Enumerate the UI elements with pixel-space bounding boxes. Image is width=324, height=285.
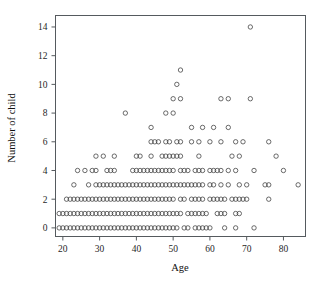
y-axis-title: Number of child — [6, 93, 17, 163]
data-point — [171, 97, 175, 101]
data-point — [219, 183, 223, 187]
data-point — [197, 154, 201, 158]
x-tick-label: 30 — [95, 244, 105, 254]
data-points-layer — [57, 25, 300, 230]
data-point — [274, 154, 278, 158]
x-tick-label: 50 — [168, 244, 178, 254]
data-point — [200, 125, 204, 129]
data-point — [237, 183, 241, 187]
x-axis-title: Age — [171, 262, 189, 273]
data-point — [123, 111, 127, 115]
data-point — [248, 97, 252, 101]
data-point — [226, 168, 230, 172]
data-point — [219, 97, 223, 101]
data-point — [233, 140, 237, 144]
x-axis-ticks: 20304050607080 — [58, 237, 288, 254]
data-point — [226, 125, 230, 129]
data-point — [296, 183, 300, 187]
y-tick-label: 4 — [43, 166, 48, 176]
data-point — [226, 183, 230, 187]
data-point — [83, 168, 87, 172]
y-tick-label: 0 — [43, 223, 48, 233]
x-tick-label: 60 — [205, 244, 215, 254]
data-point — [226, 97, 230, 101]
data-point — [189, 125, 193, 129]
data-point — [222, 226, 226, 230]
data-point — [197, 140, 201, 144]
data-point — [252, 226, 256, 230]
data-point — [86, 183, 90, 187]
data-point — [178, 97, 182, 101]
data-point — [164, 111, 168, 115]
y-tick-label: 2 — [43, 195, 48, 205]
plot-frame — [56, 16, 306, 237]
y-axis-ticks: 02468101214 — [38, 22, 56, 233]
x-tick-label: 70 — [242, 244, 252, 254]
y-tick-label: 14 — [38, 22, 48, 32]
data-point — [244, 183, 248, 187]
data-point — [211, 125, 215, 129]
x-tick-label: 20 — [58, 244, 68, 254]
data-point — [267, 140, 271, 144]
scatter-plot-figure: 20304050607080 02468101214 Age Number of… — [0, 0, 324, 285]
data-point — [252, 168, 256, 172]
x-tick-label: 40 — [132, 244, 142, 254]
data-point — [219, 140, 223, 144]
x-tick-label: 80 — [279, 244, 289, 254]
data-point — [94, 154, 98, 158]
data-point — [267, 197, 271, 201]
data-point — [75, 168, 79, 172]
data-point — [101, 154, 105, 158]
data-point — [175, 82, 179, 86]
data-point — [208, 140, 212, 144]
data-point — [281, 168, 285, 172]
data-point — [112, 154, 116, 158]
data-point — [237, 154, 241, 158]
data-point — [189, 140, 193, 144]
data-point — [149, 125, 153, 129]
plot-canvas: 20304050607080 02468101214 Age Number of… — [0, 0, 324, 285]
data-point — [241, 140, 245, 144]
data-point — [233, 226, 237, 230]
data-point — [230, 154, 234, 158]
data-point — [248, 25, 252, 29]
y-tick-label: 10 — [38, 80, 48, 90]
data-point — [178, 68, 182, 72]
data-point — [72, 183, 76, 187]
data-point — [149, 154, 153, 158]
y-tick-label: 6 — [43, 137, 48, 147]
data-point — [233, 168, 237, 172]
y-tick-label: 12 — [38, 51, 48, 61]
y-tick-label: 8 — [43, 108, 48, 118]
data-point — [171, 111, 175, 115]
